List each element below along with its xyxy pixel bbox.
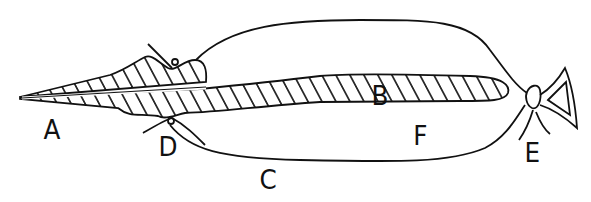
label-d: D bbox=[159, 134, 178, 160]
tie-e bbox=[519, 68, 577, 140]
label-f: F bbox=[413, 123, 427, 149]
label-b: B bbox=[371, 83, 388, 109]
label-c: C bbox=[259, 167, 276, 193]
label-e: E bbox=[524, 140, 540, 166]
diagram-canvas bbox=[0, 0, 591, 202]
label-a: A bbox=[43, 117, 60, 143]
